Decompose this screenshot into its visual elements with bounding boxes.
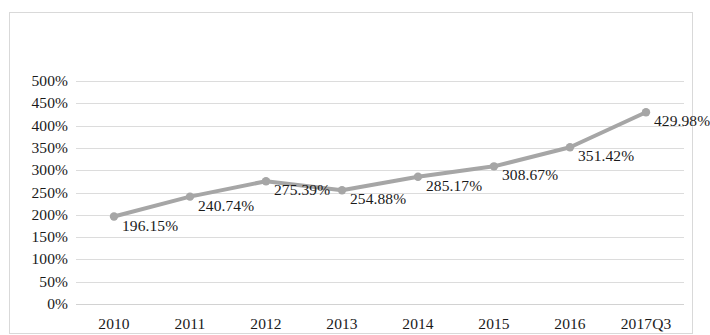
data-point-marker: [566, 143, 574, 151]
y-axis-tick-label: 200%: [31, 206, 68, 224]
y-axis-tick-label: 450%: [31, 94, 68, 112]
x-axis-tick-label: 2016: [554, 315, 585, 333]
data-point-marker: [186, 192, 194, 200]
y-axis-tick-label: 0%: [47, 295, 68, 313]
y-axis-tick-label: 50%: [39, 273, 68, 291]
y-axis-tick-label: 350%: [31, 139, 68, 157]
y-axis-tick-label: 500%: [31, 72, 68, 90]
x-axis-tick-label: 2010: [98, 315, 129, 333]
x-axis-tick-label: 2011: [175, 315, 206, 333]
data-point-marker: [110, 212, 118, 220]
x-axis-tick-label: 2015: [478, 315, 509, 333]
y-axis-tick-label: 100%: [31, 250, 68, 268]
y-axis-tick-label: 300%: [31, 161, 68, 179]
data-label: 308.67%: [502, 166, 558, 184]
data-point-marker: [642, 108, 650, 116]
data-label: 429.98%: [654, 112, 710, 130]
x-axis-tick-label: 2017Q3: [621, 315, 672, 333]
y-axis-tick-label: 150%: [31, 228, 68, 246]
data-label: 196.15%: [122, 217, 178, 235]
x-axis-tick-label: 2014: [402, 315, 433, 333]
data-point-marker: [338, 186, 346, 194]
data-label: 240.74%: [198, 197, 254, 215]
data-point-marker: [490, 162, 498, 170]
x-axis-tick-label: 2013: [326, 315, 357, 333]
data-point-marker: [262, 177, 270, 185]
data-label: 285.17%: [426, 177, 482, 195]
data-point-marker: [414, 173, 422, 181]
plot-area: 500%450%400%350%300%250%200%150%100%50%0…: [76, 81, 684, 304]
y-axis-tick-label: 250%: [31, 184, 68, 202]
data-label: 275.39%: [274, 181, 330, 199]
data-label: 254.88%: [350, 190, 406, 208]
gridline: [76, 304, 684, 305]
y-axis-tick-label: 400%: [31, 117, 68, 135]
chart-frame: 500%450%400%350%300%250%200%150%100%50%0…: [9, 12, 693, 334]
x-axis-tick-label: 2012: [250, 315, 281, 333]
data-label: 351.42%: [578, 147, 634, 165]
